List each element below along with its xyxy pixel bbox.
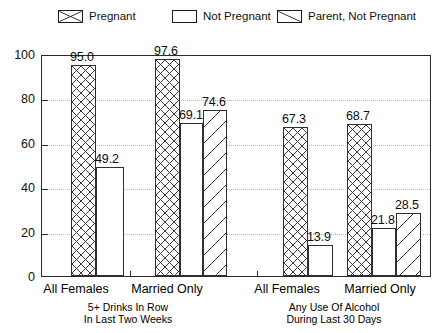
blank-swatch-icon [172,10,197,23]
legend-label-parent-not-pregnant: Parent, Not Pregnant [308,10,416,23]
x-axis: All Females Married Only All Females Mar… [0,279,443,333]
y-tick-20 [42,234,48,235]
y-tick-40 [42,189,48,190]
panel-caption-drinks: 5+ Drinks In Row In Last Two Weeks [84,301,172,325]
y-tick-label-40: 40 [21,181,35,195]
bar [308,245,333,276]
bar [283,127,308,276]
panel-caption-drinks-line1: 5+ Drinks In Row [88,301,168,313]
x-group-label-panel2-all-females: All Females [254,282,319,296]
plot-area: 95.049.297.669.174.667.313.968.721.828.5 [41,55,431,277]
bar-chart: Pregnant Not Pregnant Parent, Not Pregna… [0,0,443,333]
x-group-label-panel1-all-females: All Females [43,282,108,296]
bar-value-label: 13.9 [307,230,331,244]
bar-value-label: 49.2 [95,152,119,166]
panel-caption-drinks-line2: In Last Two Weeks [84,313,172,325]
bar-value-label: 97.6 [154,44,178,58]
crosshatch-swatch-icon [58,10,83,23]
chart-legend: Pregnant Not Pregnant Parent, Not Pregna… [0,0,443,34]
bar [396,213,421,276]
bar-value-label: 67.3 [282,112,306,126]
x-tick-1 [130,271,131,276]
plot-inner: 95.049.297.669.174.667.313.968.721.828.5 [42,56,430,276]
diagonal-swatch-icon [277,10,302,23]
bar-value-label: 69.1 [179,108,203,122]
bar [347,124,372,277]
bar-value-label: 95.0 [70,50,94,64]
legend-item-not-pregnant: Not Pregnant [172,7,271,25]
y-tick-60 [42,145,48,146]
y-tick-label-60: 60 [21,137,35,151]
bar [203,110,227,276]
y-tick-label-80: 80 [21,92,35,106]
bar-value-label: 74.6 [202,95,226,109]
x-group-label-panel1-married-only: Married Only [131,282,203,296]
y-tick-label-100: 100 [14,48,35,62]
y-axis-labels: 0 20 40 60 80 100 [0,55,35,277]
panel-caption-alcohol: Any Use Of Alcohol During Last 30 Days [286,301,381,325]
panel-caption-alcohol-line2: During Last 30 Days [286,313,381,325]
x-group-label-panel2-married-only: Married Only [344,282,416,296]
y-tick-label-20: 20 [21,226,35,240]
legend-label-not-pregnant: Not Pregnant [203,10,271,23]
bar-value-label: 68.7 [346,109,370,123]
x-tick-2 [257,271,258,276]
bar [155,59,180,276]
bar [96,167,124,276]
bar [180,123,203,276]
y-tick-80 [42,100,48,101]
bar [372,228,396,276]
gridline-80 [42,100,430,101]
bar-value-label: 28.5 [395,198,419,212]
panel-caption-alcohol-line1: Any Use Of Alcohol [289,301,379,313]
bar-value-label: 21.8 [371,213,395,227]
legend-label-pregnant: Pregnant [89,10,136,23]
legend-item-parent-not-pregnant: Parent, Not Pregnant [277,7,416,25]
legend-item-pregnant: Pregnant [58,7,136,25]
bar [71,65,96,276]
